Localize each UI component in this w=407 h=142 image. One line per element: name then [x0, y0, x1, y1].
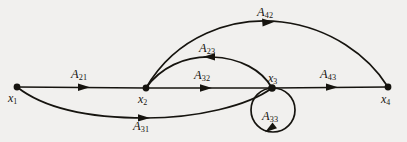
node-label-x4: x4 [381, 93, 390, 107]
edge-label-A42: A42 [257, 6, 273, 20]
edge-label-A43: A43 [320, 68, 336, 82]
node-label-x2: x2 [138, 93, 147, 107]
edge-label-A21: A21 [71, 68, 87, 82]
edge-label-A23: A23 [199, 42, 215, 56]
node-x2-dot[interactable] [143, 85, 150, 92]
node-x1-dot[interactable] [14, 84, 21, 91]
node-label-x3: x3 [268, 72, 277, 86]
edge-label-A33: A33 [262, 110, 278, 124]
node-x4-dot[interactable] [385, 84, 392, 91]
edge-A21-arrowhead [78, 84, 90, 91]
edge-label-A32: A32 [194, 69, 210, 83]
edge-A42-path [146, 21, 388, 88]
signal-flow-graph-figure: A21 A32 A43 A42 A23 A31 A33 x1 x2 x3 x4 [0, 0, 407, 142]
edge-A32-arrowhead [200, 84, 212, 91]
edge-A43-arrowhead [326, 84, 338, 91]
edge-label-A31: A31 [133, 120, 149, 134]
node-label-x1: x1 [8, 92, 17, 106]
